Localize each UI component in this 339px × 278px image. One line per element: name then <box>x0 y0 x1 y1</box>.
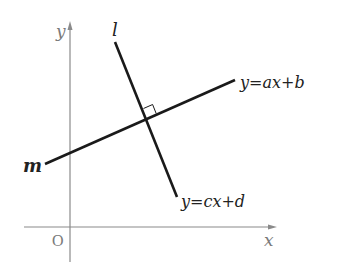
coordinate-diagram: y l y=ax+b m y=cx+d O x <box>0 0 339 278</box>
line-m-label: m <box>23 155 42 176</box>
y-axis-arrow-icon <box>68 21 73 30</box>
y-axis-label: y <box>55 21 66 41</box>
line-l-label: l <box>112 19 118 40</box>
line-l <box>115 42 177 197</box>
origin-label: O <box>52 232 64 249</box>
x-axis-label: x <box>264 230 274 250</box>
x-axis-arrow-icon <box>268 225 277 230</box>
right-angle-marker-icon <box>144 105 157 114</box>
line-l-equation: y=cx+d <box>180 192 245 211</box>
line-m-equation: y=ax+b <box>239 73 305 92</box>
line-m <box>45 80 235 164</box>
